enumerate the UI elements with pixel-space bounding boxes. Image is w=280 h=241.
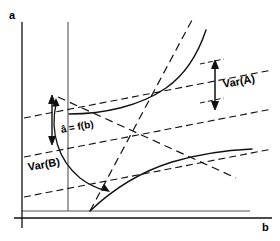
x-axis-label: b xyxy=(262,222,269,233)
y-axis-label: a xyxy=(9,10,15,21)
regression-arrowhead-end xyxy=(100,184,110,192)
plot-frame xyxy=(22,22,250,211)
band-line-lower xyxy=(24,149,272,197)
asymptotes xyxy=(58,20,236,211)
asymptote-falling xyxy=(58,97,236,178)
var-b-arrowhead-bottom xyxy=(49,137,56,146)
hyperbola-curves xyxy=(69,30,252,211)
var-a-tick-top xyxy=(200,59,224,64)
regression-arc xyxy=(54,104,104,190)
asymptote-rising xyxy=(90,20,192,211)
figure-drawing xyxy=(0,0,280,241)
figure-container: a b Var(A) Var(B) â = f(b) xyxy=(0,0,280,241)
var-a-indicator xyxy=(200,59,224,110)
hyperbola-upper-branch xyxy=(69,30,206,114)
var-a-arrowhead-bottom xyxy=(212,102,219,111)
